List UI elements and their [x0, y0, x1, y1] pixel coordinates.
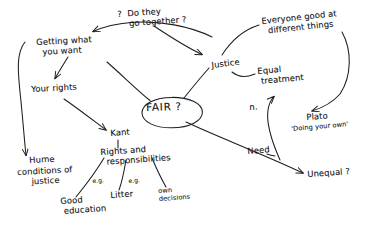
stroke-getting-to-your-rights: [55, 57, 68, 79]
node-litter: Litter: [110, 189, 133, 200]
node-need-label: Need: [247, 145, 270, 157]
stroke-everyone-to-justice: [222, 25, 259, 55]
node-n-marker: n.: [249, 102, 258, 112]
node-equal-treatment: Equal treatment: [257, 63, 304, 87]
concept-map-canvas: ? Do they go together ? Everyone good at…: [0, 0, 378, 231]
node-conditions-of-justice: conditions of justice: [17, 165, 73, 188]
node-own-decisions: own decisions: [158, 186, 191, 204]
stroke-everyone-to-plato: [312, 32, 349, 111]
node-good-education: Good education: [60, 194, 106, 217]
node-eg-left: e.g.: [92, 176, 104, 184]
node-getting-what-you-want: Getting what you want: [36, 35, 93, 58]
node-kant: Kant: [110, 128, 130, 139]
stroke-getting-to-fair: [107, 62, 150, 101]
stroke-justice-to-equal-treatment: [232, 72, 255, 77]
node-eg-middle: e.g.: [128, 176, 140, 184]
stroke-your-rights-to-kant: [64, 99, 106, 130]
stroke-getting-to-hume: [18, 42, 26, 156]
stroke-fair-to-justice: [184, 68, 209, 98]
node-fair-center: FAIR ?: [146, 100, 182, 113]
stroke-fair-to-unequal: [186, 122, 303, 173]
